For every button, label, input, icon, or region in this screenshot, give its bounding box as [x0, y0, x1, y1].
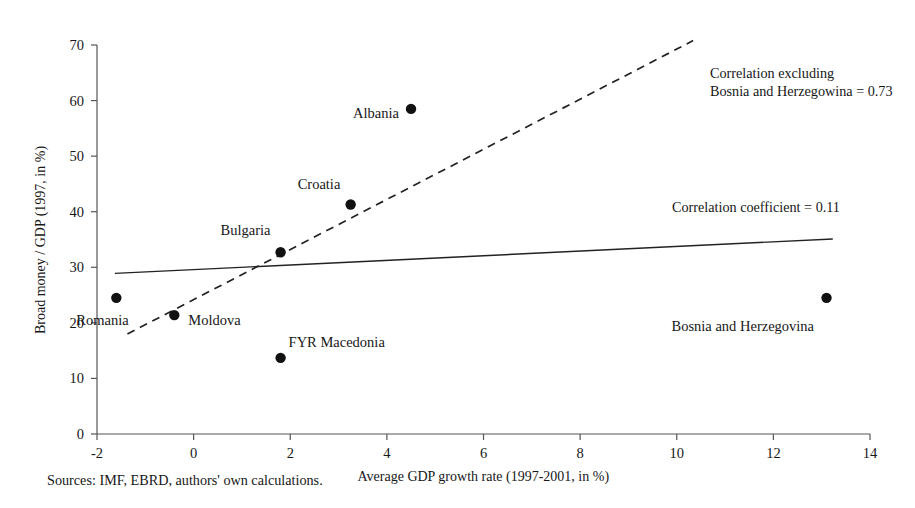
correlation-excluding-note: Correlation excludingBosnia and Herzegow…: [710, 64, 893, 100]
y-tick-label: 70: [40, 38, 84, 53]
x-tick-label: 10: [652, 446, 702, 461]
x-tick-label: 4: [362, 446, 412, 461]
x-tick-label: 8: [555, 446, 605, 461]
data-point-label: Bulgaria: [221, 223, 271, 238]
y-axis-title: Broad money / GDP (1997, in %): [34, 145, 48, 333]
data-point-label: Albania: [353, 106, 399, 121]
data-point-label: Croatia: [298, 177, 341, 192]
data-point-label: Romania: [76, 313, 128, 328]
trend-line-dashed: [127, 41, 693, 334]
data-point-label: Bosnia and Herzegovina: [672, 319, 815, 334]
y-tick-label: 60: [40, 94, 84, 109]
x-tick-label: 12: [748, 446, 798, 461]
data-point-marker: [169, 310, 179, 320]
annotation-line: Correlation coefficient = 0.11: [672, 198, 840, 216]
data-point-marker: [111, 293, 121, 303]
annotation-line: Correlation excluding: [710, 64, 893, 82]
trend-line-solid: [115, 239, 833, 273]
data-point-marker: [821, 293, 831, 303]
y-tick-label: 10: [40, 371, 84, 386]
data-point-marker: [275, 353, 285, 363]
y-tick-label: 0: [40, 427, 84, 442]
correlation-coefficient-note: Correlation coefficient = 0.11: [672, 198, 840, 216]
x-axis-title: Average GDP growth rate (1997-2001, in %…: [358, 470, 610, 484]
data-point-marker: [275, 247, 285, 257]
data-point-label: FYR Macedonia: [289, 335, 385, 350]
x-tick-label: 6: [459, 446, 509, 461]
data-point-marker: [406, 104, 416, 114]
source-note: Sources: IMF, EBRD, authors' own calcula…: [47, 472, 323, 489]
x-tick-label: 14: [845, 446, 895, 461]
data-point-marker: [345, 199, 355, 209]
data-point-label: Moldova: [188, 313, 240, 328]
x-tick-label: 2: [265, 446, 315, 461]
annotation-line: Bosnia and Herzegowina = 0.73: [710, 82, 893, 100]
chart-figure: 010203040506070 -202468101214 RomaniaMol…: [0, 0, 915, 508]
x-tick-label: 0: [169, 446, 219, 461]
x-tick-label: -2: [72, 446, 122, 461]
